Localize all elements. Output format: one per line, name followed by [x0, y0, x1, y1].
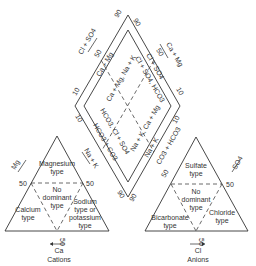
- anion-caption: Anions: [187, 256, 209, 263]
- anion-axis-cl: Cl: [195, 247, 202, 254]
- zone-sodium-l4: type: [78, 222, 91, 230]
- zone-nodominant-l3: type: [50, 202, 63, 210]
- cation-tick-right-50: 50: [86, 180, 94, 187]
- piper-diagram: Magnesium type No dominant type Calcium …: [0, 0, 256, 266]
- zone-calcium-l1: Calcium: [15, 206, 40, 213]
- anion-triangle: Sulfate type No dominant type Bicarbonat…: [145, 126, 248, 263]
- cation-triangle: Magnesium type No dominant type Calcium …: [5, 136, 109, 263]
- anion-axis-co3hco3: CO3 + HCO3: [155, 126, 182, 166]
- zone-sodium-l2: type or: [74, 206, 96, 214]
- diamond-tick-90-br: 90: [128, 192, 138, 202]
- cation-axis-ca: Ca: [55, 247, 64, 254]
- anion-tick-left-50: 50: [160, 168, 170, 178]
- zone-sodium-l1: Sodium: [73, 198, 97, 205]
- ca-arrow-head-icon: [50, 242, 53, 246]
- anion-tick-bottom-50: 50: [198, 238, 205, 246]
- zone-sulfate-l2: type: [189, 170, 202, 178]
- zone-chloride-l1: Chloride: [209, 209, 235, 216]
- zone-chloride-l2: type: [215, 217, 228, 225]
- zone-sodium-l3: potassium: [69, 214, 101, 222]
- diamond-tick-10-ru: 10: [175, 86, 185, 96]
- anion-tick-right-50: 50: [226, 181, 234, 188]
- cation-tick-bottom-50: 50: [59, 238, 66, 246]
- diamond-tick-10-rl: 10: [171, 114, 181, 124]
- anion-axis-so4: SO4: [231, 155, 244, 171]
- zone-calcium-l2: type: [21, 214, 34, 222]
- cation-tick-left-50: 50: [19, 180, 27, 187]
- diamond-tick-50-ul: 50: [93, 48, 103, 58]
- zone-nodominant-l2: dominant: [43, 194, 72, 201]
- zone-nodominant-l1: No: [53, 186, 62, 193]
- zone-anion-nodominant-l3: type: [189, 204, 202, 212]
- diamond-tick-90-tr: 90: [132, 17, 142, 27]
- zone-bicarbonate-l1: Bicarbonate: [151, 214, 188, 221]
- zone-bicarbonate-l2: type: [163, 222, 176, 230]
- diamond-tick-10-ll: 10: [74, 113, 84, 123]
- cation-caption: Cations: [47, 256, 71, 263]
- diamond-axis-camg: Ca + Mg: [164, 41, 184, 68]
- diamond-tick-90-tl: 90: [113, 8, 123, 18]
- zone-magnesium: Magnesium: [39, 160, 75, 168]
- zone-anion-nodominant-l1: No: [192, 188, 201, 195]
- diamond-label-nak: Na + K: [143, 136, 160, 158]
- zone-magnesium-l2: type: [50, 168, 63, 176]
- diamond-tick-50-ur: 50: [155, 47, 165, 57]
- zone-sulfate-l1: Sulfate: [185, 162, 207, 169]
- zone-anion-nodominant-l2: dominant: [182, 196, 211, 203]
- diamond-tick-10-lu: 10: [71, 86, 81, 96]
